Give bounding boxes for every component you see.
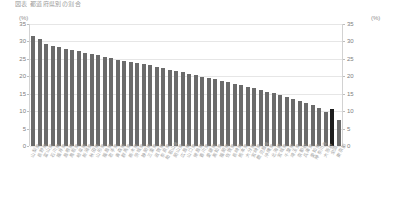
bar bbox=[246, 87, 250, 146]
bar bbox=[233, 84, 237, 146]
bar bbox=[226, 82, 230, 146]
bar bbox=[252, 88, 256, 146]
bar bbox=[194, 75, 198, 146]
y-axis-tick-label-right: 20 bbox=[347, 73, 360, 79]
y-axis-tick-label-right: 10 bbox=[347, 108, 360, 114]
x-label-slot: 東京都 bbox=[336, 147, 343, 193]
bar bbox=[51, 46, 55, 146]
bar bbox=[64, 49, 68, 146]
bar-series bbox=[30, 24, 342, 146]
bar bbox=[187, 74, 191, 146]
bar bbox=[129, 62, 133, 146]
y-axis-tick-label-right: 15 bbox=[347, 91, 360, 97]
y-axis-tick-mark-right bbox=[343, 129, 345, 130]
y-axis-tick-label: 10 bbox=[13, 108, 26, 114]
y-axis-tick-mark-right bbox=[343, 41, 345, 42]
right-axis-unit-label: (%) bbox=[371, 15, 380, 21]
bar bbox=[135, 63, 139, 146]
bar bbox=[103, 57, 107, 146]
bar bbox=[272, 93, 276, 146]
bar bbox=[57, 47, 61, 146]
bar bbox=[304, 103, 308, 146]
y-axis-tick-label: 35 bbox=[13, 21, 26, 27]
y-axis-tick-label: 0 bbox=[13, 143, 26, 149]
bar bbox=[239, 85, 243, 146]
y-axis-tick-label-right: 0 bbox=[347, 143, 360, 149]
bar-highlighted bbox=[330, 109, 334, 146]
bar bbox=[96, 55, 100, 146]
y-axis-tick-mark-right bbox=[343, 94, 345, 95]
bar bbox=[155, 67, 159, 146]
bar bbox=[142, 64, 146, 146]
bar bbox=[337, 120, 341, 146]
bar bbox=[31, 36, 35, 146]
bar bbox=[77, 51, 81, 146]
bar bbox=[291, 99, 295, 146]
y-axis-tick-mark-right bbox=[343, 24, 345, 25]
y-axis-tick-label: 25 bbox=[13, 56, 26, 62]
bar bbox=[83, 53, 87, 146]
bar bbox=[207, 78, 211, 146]
bar bbox=[38, 39, 42, 146]
bar bbox=[116, 60, 120, 146]
y-axis-tick-mark-right bbox=[343, 59, 345, 60]
bar bbox=[220, 81, 224, 146]
right-axis-spine bbox=[342, 24, 343, 146]
y-axis-tick-label-right: 30 bbox=[347, 38, 360, 44]
y-axis-tick-label: 15 bbox=[13, 91, 26, 97]
bar bbox=[213, 79, 217, 146]
y-axis-tick-label: 5 bbox=[13, 126, 26, 132]
bar bbox=[90, 54, 94, 146]
bar bbox=[311, 105, 315, 146]
y-axis-tick-label-right: 5 bbox=[347, 126, 360, 132]
bar bbox=[168, 70, 172, 146]
bar bbox=[200, 77, 204, 146]
bar bbox=[298, 101, 302, 146]
bar bbox=[259, 90, 263, 146]
bar bbox=[317, 108, 321, 146]
chart-title: 図表 都道府県別の割合 bbox=[15, 0, 81, 7]
bar-slot bbox=[336, 24, 343, 146]
y-axis-tick-label-right: 35 bbox=[347, 21, 360, 27]
x-axis-category-labels: 山梨県長野県富山県石川県福井県島根県鳥取県岐阜県新潟県秋田県山形県福島県岩手県青… bbox=[30, 147, 342, 193]
bar bbox=[70, 50, 74, 146]
bar bbox=[122, 61, 126, 146]
y-axis-tick-mark-right bbox=[343, 111, 345, 112]
y-axis-tick-label: 20 bbox=[13, 73, 26, 79]
y-axis-tick-label-right: 25 bbox=[347, 56, 360, 62]
bar bbox=[44, 44, 48, 146]
bar-chart: 図表 都道府県別の割合 (%) (%) 35302520151050 35302… bbox=[0, 0, 397, 199]
bar bbox=[265, 92, 269, 146]
y-axis-tick-label: 30 bbox=[13, 38, 26, 44]
bar bbox=[161, 68, 165, 146]
plot-area: 35302520151050 35302520151050 bbox=[30, 24, 342, 146]
bar bbox=[278, 95, 282, 146]
bar bbox=[285, 97, 289, 146]
y-axis-tick-mark bbox=[27, 146, 29, 147]
bar bbox=[174, 71, 178, 146]
bar bbox=[109, 58, 113, 146]
bar bbox=[148, 65, 152, 146]
y-axis-tick-mark-right bbox=[343, 76, 345, 77]
bar bbox=[181, 72, 185, 146]
